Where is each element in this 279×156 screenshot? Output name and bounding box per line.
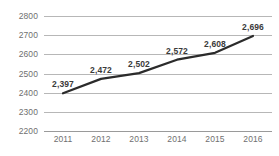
y-axis-tick-label: 2700 [0,30,38,40]
plot-area: 2,3972,4722,5022,5722,6082,696 [44,16,272,131]
data-label: 2,696 [242,22,264,32]
y-axis-tick-label: 2500 [0,69,38,79]
y-axis-tick-label: 2800 [0,11,38,21]
x-axis-tick-label: 2014 [157,134,197,144]
data-label: 2,397 [52,79,74,89]
x-axis-line [44,131,272,132]
y-axis-tick-label: 2300 [0,107,38,117]
series-line-chart-svg [44,16,272,131]
y-axis-tick-label: 2600 [0,49,38,59]
x-axis-tick-label: 2015 [195,134,235,144]
data-label: 2,608 [204,39,226,49]
data-label: 2,502 [128,59,150,69]
data-label: 2,472 [90,65,112,75]
x-axis-tick-label: 2012 [81,134,121,144]
x-axis-tick-label: 2016 [233,134,273,144]
data-label: 2,572 [166,46,188,56]
x-axis-tick-label: 2013 [119,134,159,144]
x-axis-tick-label: 2011 [43,134,83,144]
y-axis-tick-label: 2200 [0,126,38,136]
line-chart: 2800270026002500240023002200 2,3972,4722… [0,0,279,156]
x-axis-tick-labels: 201120122013201420152016 [44,134,272,150]
y-axis-tick-label: 2400 [0,88,38,98]
